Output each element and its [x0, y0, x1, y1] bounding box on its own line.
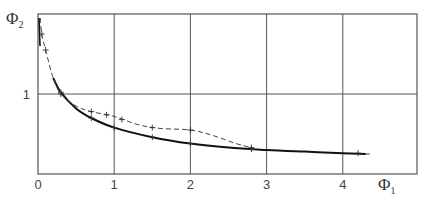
series-solid-start-stub — [39, 18, 40, 46]
series-group — [39, 18, 370, 156]
y-tick-label: 1 — [23, 87, 30, 102]
data-marker — [187, 127, 193, 133]
series-dashed-line — [40, 18, 251, 148]
chart: 012341 Φ2 Φ1 — [0, 0, 431, 197]
data-marker — [149, 125, 155, 131]
data-marker — [111, 125, 117, 131]
x-tick-label: 1 — [111, 177, 118, 192]
y-axis-label: Φ2 — [6, 9, 23, 30]
data-marker — [43, 47, 49, 53]
x-axis-label: Φ1 — [378, 175, 395, 196]
data-marker — [104, 112, 110, 118]
series-solid-line — [53, 78, 366, 154]
grid — [38, 14, 417, 174]
x-tick-label: 2 — [187, 177, 194, 192]
data-marker — [355, 150, 361, 156]
x-tick-label: 3 — [263, 177, 270, 192]
data-marker — [187, 141, 193, 147]
x-tick-label: 4 — [339, 177, 346, 192]
data-marker — [119, 117, 125, 123]
data-marker — [88, 109, 94, 115]
x-tick-label: 0 — [34, 177, 41, 192]
data-marker — [149, 134, 155, 140]
